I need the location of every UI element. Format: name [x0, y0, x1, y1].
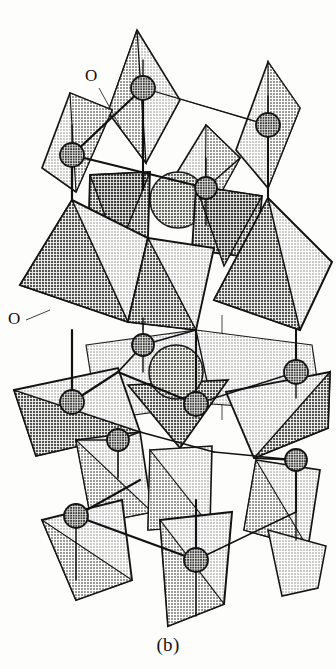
oxygen-sphere: [131, 76, 155, 100]
oxygen-sphere: [284, 360, 308, 384]
crystal-structure-drawing: [0, 0, 336, 669]
oxygen-label-left: O: [8, 309, 20, 329]
oxygen-sphere: [195, 177, 217, 199]
figure-container: O O (b): [0, 0, 336, 669]
figure-caption: (b): [0, 634, 336, 656]
oxygen-sphere: [285, 449, 307, 471]
oxygen-sphere: [184, 548, 208, 572]
oxygen-sphere: [132, 334, 154, 356]
oxygen-label-top: O: [85, 66, 97, 86]
leader-line-o-left: [26, 310, 50, 320]
tetrahedron-bottom-right: [268, 530, 326, 596]
oxygen-sphere: [184, 392, 208, 416]
oxygen-sphere: [60, 143, 84, 167]
structure-scene: [14, 30, 332, 626]
oxygen-sphere: [256, 113, 280, 137]
oxygen-sphere: [64, 504, 88, 528]
oxygen-sphere: [60, 390, 84, 414]
oxygen-sphere: [107, 429, 129, 451]
